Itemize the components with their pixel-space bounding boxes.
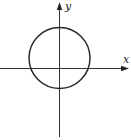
x-axis-label: x — [123, 53, 130, 66]
y-axis-arrow-icon — [57, 2, 62, 10]
coordinate-diagram: x y — [0, 0, 131, 140]
x-axis-arrow-icon — [121, 66, 129, 71]
y-axis-label: y — [64, 0, 72, 13]
